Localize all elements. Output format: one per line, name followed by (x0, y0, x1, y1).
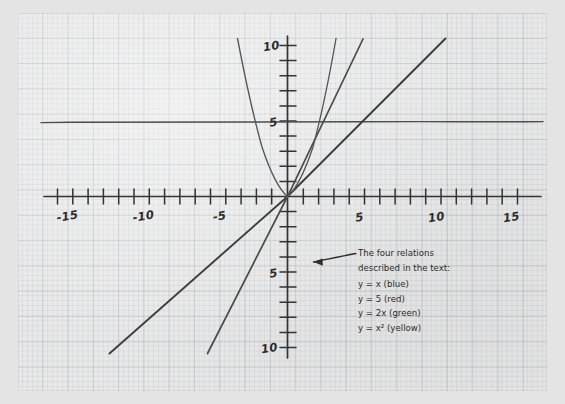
series-y-equals-5 (41, 122, 543, 123)
annotation-title-line-1: The four relations (357, 248, 434, 258)
annotation-entry-y-equals-2x: y = 2x (green) (358, 308, 421, 318)
y-tick-label: 5 (268, 114, 278, 129)
annotation-entry-y-equals-x-squared: y = x² (yellow) (358, 323, 421, 333)
screenshot-root: -15 -10 -5 5 10 15 10 5 5 10 The four re… (0, 0, 565, 404)
x-tick-label: -5 (212, 208, 227, 224)
y-tick-label: 5 (268, 265, 278, 280)
annotation-entry-y-equals-x: y = x (blue) (358, 279, 409, 289)
x-tick-label: -15 (56, 207, 80, 224)
callout-arrow (314, 254, 357, 266)
annotation-text-block: The four relations described in the text… (357, 248, 450, 333)
x-tick-label: 15 (502, 209, 521, 225)
y-tick-label: 10 (262, 38, 281, 54)
y-tick-label: 10 (260, 340, 279, 356)
annotation-entry-y-equals-5: y = 5 (red) (358, 294, 405, 304)
x-tick-label: -10 (132, 207, 156, 224)
plot-canvas: -15 -10 -5 5 10 15 10 5 5 10 The four re… (0, 0, 565, 404)
x-tick-label: 10 (427, 209, 446, 225)
annotation-title-line-2: described in the text: (358, 263, 450, 273)
x-tick-label: 5 (354, 209, 364, 224)
